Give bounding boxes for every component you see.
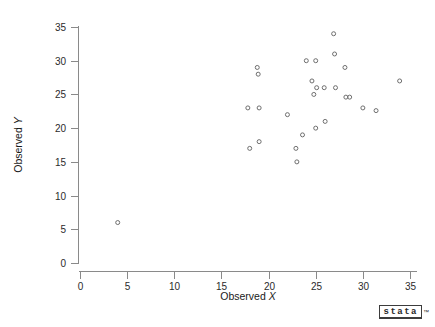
- data-point: [304, 59, 308, 63]
- stata-logo-text: stata: [383, 307, 418, 317]
- y-tick-label-20: 20: [55, 123, 67, 134]
- data-point: [310, 79, 314, 83]
- data-point: [333, 52, 337, 56]
- y-tick-label-30: 30: [55, 56, 67, 67]
- x-tick-label-30: 30: [358, 281, 370, 292]
- data-point: [257, 106, 261, 110]
- data-point: [314, 126, 318, 130]
- y-axis-title: Observed Y: [12, 116, 24, 172]
- data-point: [256, 72, 260, 76]
- data-point-markers: [116, 32, 402, 225]
- data-point: [315, 86, 319, 90]
- data-point: [312, 92, 316, 96]
- data-point: [322, 86, 326, 90]
- data-point: [257, 140, 261, 144]
- data-point: [374, 109, 378, 113]
- y-axis-ticks: [71, 28, 79, 264]
- stata-logo-box: stata: [379, 305, 422, 319]
- x-axis-title: Observed X: [220, 290, 276, 302]
- x-tick-label-5: 5: [125, 281, 131, 292]
- y-tick-label-5: 5: [60, 224, 66, 235]
- data-point: [295, 160, 299, 164]
- scatterplot-figure: 05101520253035 05101520253035 Observed X…: [0, 0, 435, 327]
- data-point: [246, 106, 250, 110]
- data-point: [314, 59, 318, 63]
- stata-logo: stata ™: [379, 305, 429, 319]
- data-point: [285, 113, 289, 117]
- x-axis-ticks: [81, 272, 411, 280]
- x-tick-label-10: 10: [169, 281, 181, 292]
- y-tick-label-35: 35: [55, 22, 67, 33]
- x-tick-label-0: 0: [78, 281, 84, 292]
- data-point: [332, 32, 336, 36]
- data-point: [294, 146, 298, 150]
- y-tick-label-10: 10: [55, 191, 67, 202]
- plot-canvas: 05101520253035 05101520253035 Observed X…: [0, 0, 435, 327]
- data-point: [255, 65, 259, 69]
- data-point: [301, 133, 305, 137]
- y-tick-label-0: 0: [60, 258, 66, 269]
- data-point: [248, 146, 252, 150]
- y-tick-label-15: 15: [55, 157, 67, 168]
- stata-trademark-symbol: ™: [423, 309, 429, 315]
- data-point: [343, 65, 347, 69]
- x-tick-label-25: 25: [311, 281, 323, 292]
- data-point: [334, 86, 338, 90]
- data-point: [323, 119, 327, 123]
- data-point: [116, 221, 120, 225]
- y-tick-label-25: 25: [55, 89, 67, 100]
- x-tick-label-35: 35: [405, 281, 417, 292]
- y-axis-tick-labels: 05101520253035: [55, 22, 67, 269]
- data-point: [361, 106, 365, 110]
- data-point: [398, 79, 402, 83]
